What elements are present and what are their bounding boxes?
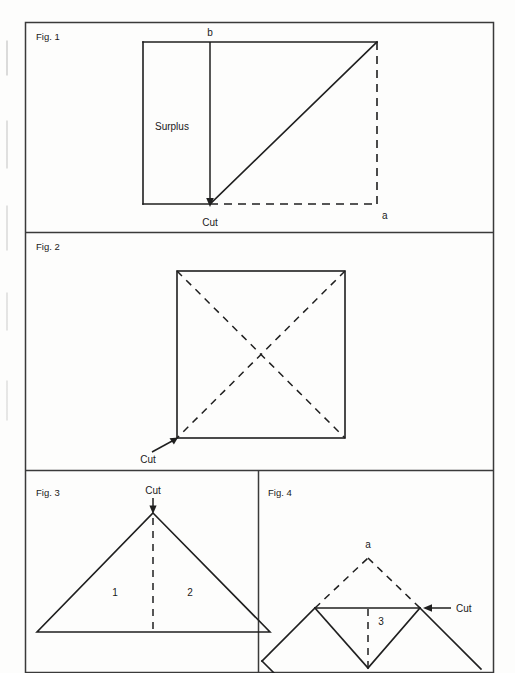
fig1-cut-label: Cut bbox=[202, 217, 218, 228]
figure-3-group: Fig. 3 Cut 1 2 bbox=[36, 485, 270, 632]
figure-1-group: Fig. 1 b a Surplus Cut bbox=[36, 27, 388, 228]
fig1-point-b-label: b bbox=[207, 27, 213, 38]
fig4-region3-left-edge bbox=[315, 608, 368, 668]
plate-border bbox=[26, 23, 494, 673]
fig4-dashed-left-to-apex bbox=[315, 558, 368, 608]
fig4-outer-right-arm bbox=[420, 608, 481, 669]
figure-2-group: Fig. 2 Cut bbox=[36, 241, 345, 465]
fig1-diagonal bbox=[210, 42, 377, 204]
fig4-label: Fig. 4 bbox=[268, 487, 292, 498]
fig2-cut-arrow-line bbox=[152, 440, 174, 452]
fig3-region-2-label: 2 bbox=[187, 587, 193, 598]
fig3-region-1-label: 1 bbox=[112, 587, 118, 598]
fig2-cut-label: Cut bbox=[140, 454, 156, 465]
fig3-cut-arrowhead-icon bbox=[149, 506, 156, 515]
fig4-outer-left-arm-up bbox=[262, 608, 315, 661]
fig4-dashed-apex-to-right bbox=[368, 558, 420, 608]
figure-plate-page: Fig. 1 b a Surplus Cut Fig. 2 bbox=[0, 0, 515, 673]
fig2-label: Fig. 2 bbox=[36, 241, 60, 252]
fig4-point-a-label: a bbox=[365, 539, 371, 550]
fig4-outer-left-arm-down bbox=[262, 661, 274, 673]
fig1-label: Fig. 1 bbox=[36, 31, 60, 42]
fig4-region-3-label: 3 bbox=[378, 616, 384, 627]
figure-4-group: Fig. 4 a 3 Cut bbox=[262, 487, 481, 673]
fig3-label: Fig. 3 bbox=[36, 487, 60, 498]
fig4-cut-label: Cut bbox=[456, 603, 472, 614]
fig4-region3-right-edge bbox=[368, 608, 420, 668]
fig3-cut-label: Cut bbox=[145, 485, 161, 496]
figure-plate-canvas: Fig. 1 b a Surplus Cut Fig. 2 bbox=[0, 0, 515, 673]
fig1-surplus-label: Surplus bbox=[155, 121, 189, 132]
fig4-cut-arrowhead-icon bbox=[423, 604, 432, 612]
fig1-point-a-label: a bbox=[382, 210, 388, 221]
